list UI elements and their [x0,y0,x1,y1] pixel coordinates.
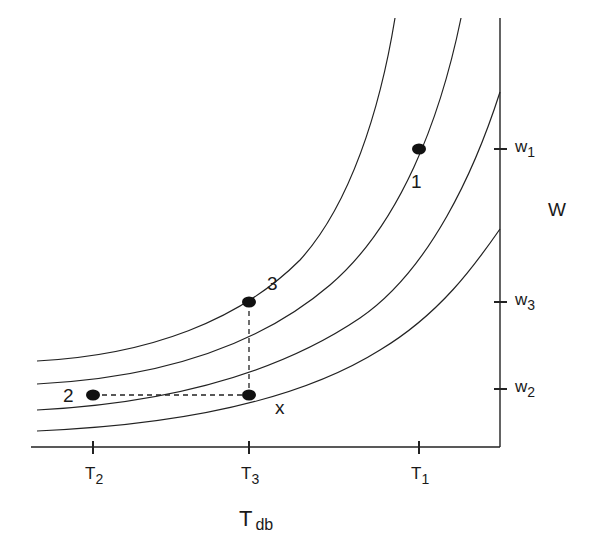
tick-label-sub: 1 [421,471,429,487]
tick-label-w2: w2 [515,378,535,399]
tick-label-T1: T1 [411,465,429,486]
tick-label-sub: 3 [251,471,259,487]
tick-label-text: T [85,464,95,483]
tick-label-text: T [411,464,421,483]
tick-label-text: w [515,377,527,396]
x-axis-title: Tdb [239,508,273,533]
point-2-label: 2 [63,386,74,405]
x-axis-title-sub: db [255,516,273,533]
tick-label-T2: T2 [85,465,103,486]
tick-label-text: w [515,290,527,309]
point-2 [86,390,100,401]
curve-1 [37,18,395,361]
point-3-label: 3 [267,274,278,293]
point-x [242,390,256,401]
curve-4 [37,229,500,431]
curve-3 [37,92,500,410]
tick-label-sub: 1 [527,144,535,160]
tick-label-text: w [515,137,527,156]
point-1 [412,144,426,155]
tick-label-sub: 3 [527,297,535,313]
tick-label-w3: w3 [515,291,535,312]
tick-label-text: T [241,464,251,483]
tick-label-w1: w1 [515,138,535,159]
point-1-label: 1 [411,172,422,191]
tick-label-sub: 2 [527,384,535,400]
y-axis-title: W [548,200,566,219]
tick-label-sub: 2 [95,471,103,487]
point-3 [242,297,256,308]
tick-label-T3: T3 [241,465,259,486]
point-x-label: x [275,398,285,417]
x-axis-title-text: T [239,506,252,531]
